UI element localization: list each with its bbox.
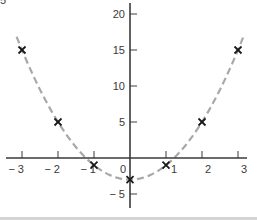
x-tick-label: 0 — [120, 163, 126, 175]
y-tick-label: 20 — [113, 8, 125, 20]
x-tick-label: − 2 — [44, 163, 60, 175]
x-marker — [55, 119, 62, 126]
y-tick-label: 5 — [119, 116, 125, 128]
x-marker — [163, 162, 170, 169]
parabola-scatter-chart: − 3− 2− 10123− 55101520 — [0, 0, 257, 220]
x-marker — [199, 119, 206, 126]
x-tick-label: 1 — [171, 163, 177, 175]
y-tick-label: 15 — [113, 44, 125, 56]
y-tick-label: − 5 — [109, 188, 125, 200]
x-tick-label: − 3 — [8, 163, 24, 175]
axis-ticks: − 3− 2− 10123− 55101520 — [8, 8, 247, 200]
x-tick-label: 3 — [241, 163, 247, 175]
x-tick-label: 2 — [205, 163, 211, 175]
y-tick-label: 10 — [113, 80, 125, 92]
bottom-divider — [0, 217, 257, 220]
